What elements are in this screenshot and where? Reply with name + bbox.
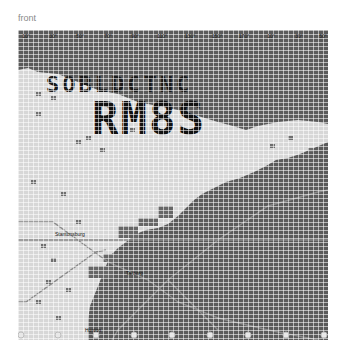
lon-label: 50° <box>319 33 327 39</box>
marker-icon[interactable] <box>131 332 138 339</box>
lon-label: 90° <box>131 33 139 39</box>
marker-icon[interactable] <box>245 332 252 339</box>
overlay-text-2: RM8S <box>92 93 206 144</box>
marker-icon[interactable] <box>207 332 214 339</box>
lon-label: 30° <box>295 33 303 39</box>
lon-label: 170° <box>239 33 249 39</box>
lon-label: 10° <box>267 33 275 39</box>
lon-label: 70° <box>104 33 112 39</box>
lon-label: 30° <box>49 33 57 39</box>
pixel-map[interactable]: SOBLDCTNC RM8S 10° 30° 50° 70° 90° 110° … <box>18 30 328 340</box>
marker-icon[interactable] <box>55 332 62 339</box>
lon-label: 110° <box>157 33 167 39</box>
lon-label: 150° <box>212 33 222 39</box>
map-shapes: SOBLDCTNC RM8S <box>18 30 328 340</box>
place-label-tarboro[interactable]: Tarboro <box>126 270 143 276</box>
marker-icon[interactable] <box>93 332 100 339</box>
place-label-stantonsburg[interactable]: Stantonsburg <box>55 231 85 237</box>
lon-label: 130° <box>185 33 195 39</box>
marker-icon[interactable] <box>321 332 328 339</box>
map-caption: front <box>18 13 36 23</box>
marker-icon[interactable] <box>169 332 176 339</box>
lon-label: 10° <box>22 33 30 39</box>
marker-icon[interactable] <box>283 332 290 339</box>
lon-label: 50° <box>76 33 84 39</box>
